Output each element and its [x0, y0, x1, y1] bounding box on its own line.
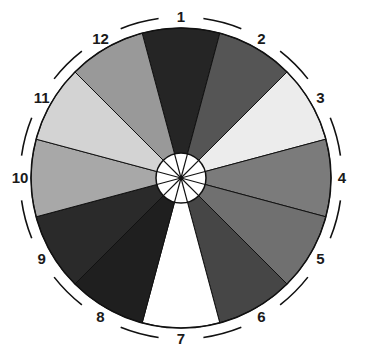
segmented-wheel-diagram: 123456789101112: [0, 0, 367, 362]
ring-arc: [121, 327, 159, 337]
segment-label-1: 1: [177, 8, 185, 25]
segment-label-3: 3: [316, 89, 324, 106]
ring-arc: [203, 327, 241, 337]
ring-arc: [121, 19, 159, 29]
segment-label-8: 8: [96, 308, 104, 325]
segment-label-9: 9: [37, 250, 45, 267]
segment-label-4: 4: [338, 169, 347, 186]
segment-label-2: 2: [257, 30, 265, 47]
ring-arc: [203, 19, 241, 29]
ring-arc: [22, 200, 32, 238]
segment-label-12: 12: [92, 30, 109, 47]
segment-label-10: 10: [12, 169, 29, 186]
ring-arc: [330, 118, 340, 156]
center-hub: [156, 153, 206, 203]
segment-label-5: 5: [316, 250, 324, 267]
ring-arc: [22, 118, 32, 156]
segment-label-7: 7: [177, 330, 185, 347]
segment-label-11: 11: [34, 89, 50, 106]
ring-arc: [330, 200, 340, 238]
segment-label-6: 6: [257, 308, 265, 325]
